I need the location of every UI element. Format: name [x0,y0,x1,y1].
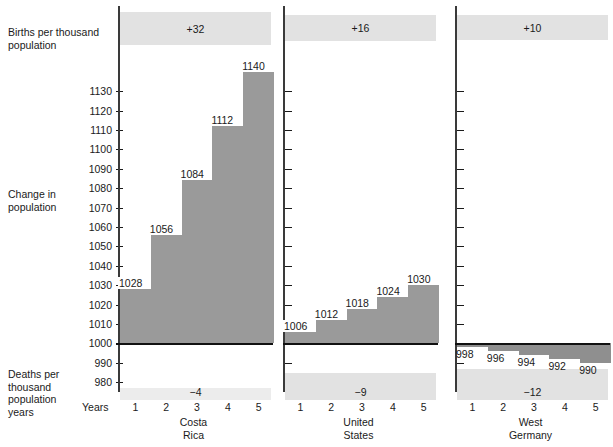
y-axis-tick-label: 1000 [78,338,112,348]
y-axis-tick-mark [285,91,292,92]
bar-value-label: 994 [517,356,537,368]
y-axis-tick-mark [457,266,464,267]
births-band-label: +16 [283,22,438,34]
y-axis-tick-mark [285,208,292,209]
x-axis-tick-label: 5 [252,401,266,413]
zero-reference-line [118,343,273,345]
y-axis-tick-mark [285,363,292,364]
x-axis-tick-label: 5 [589,401,603,413]
y-axis-tick-mark [457,169,464,170]
x-axis-tick-label: 2 [496,401,510,413]
y-axis-tick-mark [285,188,292,189]
y-axis-tick-mark [285,246,292,247]
bar-value-label: 1140 [241,60,266,72]
data-bar [285,332,316,344]
y-axis-tick-mark [457,305,464,306]
y-axis-tick-mark [457,227,464,228]
y-axis-tick-label: 1080 [78,183,112,193]
data-bar [519,343,550,355]
data-bar [316,320,347,343]
zero-reference-line [116,343,120,345]
x-axis-tick-label: 5 [417,401,431,413]
y-axis-tick-label: 1110 [78,125,112,135]
x-axis-tick-label: 3 [527,401,541,413]
y-axis-tick-mark [285,111,292,112]
y-axis-tick-mark [457,111,464,112]
x-axis-title: Years [82,401,108,413]
bar-value-label: 998 [455,348,475,360]
bar-value-label: 1030 [406,273,431,285]
x-axis-tick-label: 2 [324,401,338,413]
y-axis-tick-mark [457,149,464,150]
y-axis-tick-mark [457,91,464,92]
y-axis-tick-mark [285,227,292,228]
data-bar [580,343,611,362]
deaths-band-label: −12 [455,386,610,398]
data-bar [151,235,182,344]
x-axis-tick-label: 1 [293,401,307,413]
bar-value-label: 1112 [210,114,234,126]
y-axis-tick-label: 1090 [78,164,112,174]
chart-panel: +10−1299819962994399249905West Germany [455,0,610,447]
y-axis-tick-label: 1070 [78,203,112,213]
y-axis-tick-label: 1030 [78,280,112,290]
x-axis-tick-label: 3 [190,401,204,413]
y-axis-tick-label: 990 [78,358,112,368]
x-axis-tick-label: 1 [128,401,142,413]
bar-value-label: 1084 [180,168,205,180]
panel-country-label: Costa Rica [118,416,269,441]
data-bar [182,180,213,343]
panel-axis-line [455,6,457,392]
row-label-change: Change in population [8,188,56,213]
bar-value-label: 990 [578,364,598,376]
y-axis-tick-mark [285,305,292,306]
births-band-label: +32 [118,23,273,35]
data-bar [377,297,408,344]
y-axis-tick-mark [457,188,464,189]
y-axis-tick-label: 1060 [78,222,112,232]
data-bar [347,309,378,344]
y-axis-tick-label: 1050 [78,241,112,251]
data-bar [212,126,243,343]
y-axis-tick-label: 1120 [78,106,112,116]
data-bar [120,289,151,343]
y-axis-tick-mark [457,285,464,286]
births-band-label: +10 [455,22,610,34]
x-axis-tick-label: 1 [465,401,479,413]
y-axis-tick-mark [457,246,464,247]
bar-value-label: 992 [547,360,567,372]
chart-canvas: Births per thousand population Change in… [0,0,613,447]
y-axis-tick-mark [457,324,464,325]
y-axis-tick-mark [285,169,292,170]
bar-value-label: 1018 [345,297,370,309]
chart-panel: +32−41028110562108431112411405Costa Rica [118,0,273,447]
y-axis-tick-mark [285,285,292,286]
x-axis-tick-label: 2 [159,401,173,413]
y-axis-tick-label: 1020 [78,300,112,310]
bar-value-label: 996 [486,352,506,364]
deaths-band-label: −4 [118,386,273,398]
y-axis-tick-mark [457,363,464,364]
zero-reference-line [283,343,438,345]
bar-value-label: 1012 [314,308,339,320]
y-axis-tick-mark [285,149,292,150]
row-label-deaths: Deaths per thousand population years [8,368,59,418]
panel-country-label: West Germany [455,416,606,441]
bar-value-label: 1024 [375,285,400,297]
panel-country-label: United States [283,416,434,441]
bar-value-label: 1006 [283,320,308,332]
y-axis-tick-mark [457,208,464,209]
zero-reference-line [455,343,610,345]
x-axis-tick-label: 4 [221,401,235,413]
row-label-births: Births per thousand population [8,26,99,51]
data-bar [243,72,274,344]
y-axis-tick-label: 980 [78,377,112,387]
x-axis-tick-label: 4 [558,401,572,413]
deaths-band-label: −9 [283,386,438,398]
y-axis-tick-label: 1010 [78,319,112,329]
x-axis-tick-label: 3 [355,401,369,413]
y-axis-tick-label: 1100 [78,144,112,154]
y-axis-tick-mark [457,130,464,131]
y-axis-tick-mark [285,266,292,267]
data-bar [408,285,439,343]
